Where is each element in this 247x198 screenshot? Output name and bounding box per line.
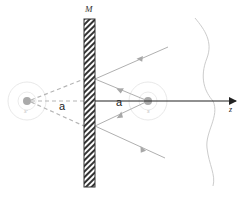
image-source-label: S′ [24,109,28,114]
mirror [84,19,95,187]
distance-label-right: a [116,97,122,108]
axis-label: z [229,106,232,114]
mirror-reflection-diagram: M a a z S′ S [0,0,247,198]
distance-label-left: a [59,101,65,112]
mirror-label: M [85,5,93,14]
wavefront-curve [195,18,215,186]
diagram-canvas [0,0,247,198]
source-label: S [147,109,150,114]
